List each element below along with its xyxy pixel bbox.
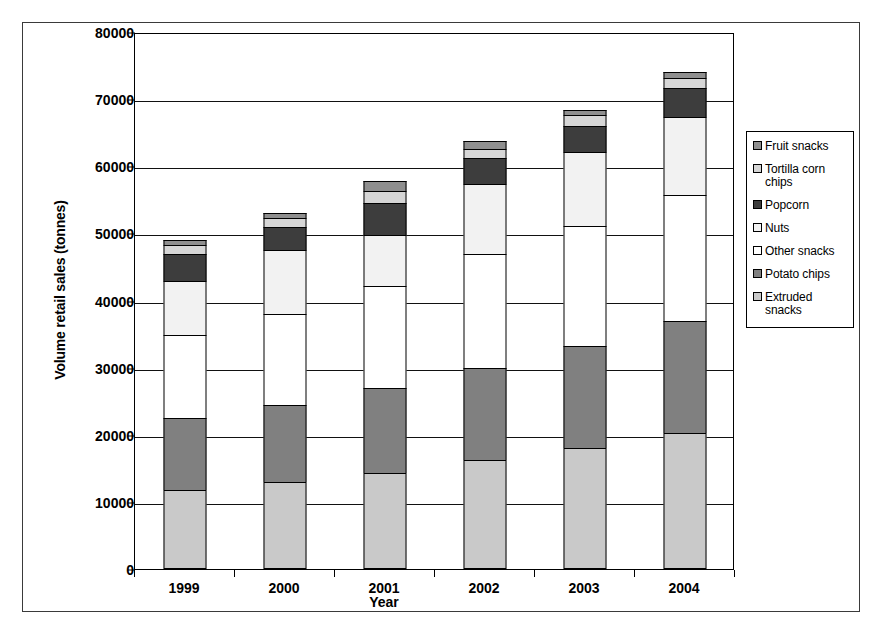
bar-segment[interactable] <box>564 346 607 448</box>
legend-item[interactable]: Tortilla corn chips <box>753 163 849 189</box>
y-axis-tick-label: 10000 <box>64 495 134 511</box>
bar-segment[interactable] <box>364 388 407 473</box>
stacked-bar[interactable] <box>164 240 207 569</box>
legend-label: Other snacks <box>765 245 835 258</box>
bar-segment[interactable] <box>664 321 707 434</box>
bar-segment[interactable] <box>164 281 207 335</box>
y-axis-tick-label: 20000 <box>64 428 134 444</box>
x-axis-tick-mark <box>534 570 535 577</box>
bar-group <box>635 34 735 569</box>
bar-segment[interactable] <box>164 335 207 418</box>
y-axis-tick-label: 60000 <box>64 159 134 175</box>
y-axis-tick-label: 30000 <box>64 361 134 377</box>
bar-segment[interactable] <box>264 218 307 227</box>
y-axis-tick-label: 0 <box>64 562 134 578</box>
stacked-bar[interactable] <box>464 141 507 569</box>
chart-figure: Volume retail sales (tonnes) 01000020000… <box>0 0 883 634</box>
x-axis-tick-label: 1999 <box>134 580 234 596</box>
legend-label: Fruit snacks <box>765 140 828 153</box>
stacked-bar[interactable] <box>564 110 607 569</box>
bar-segment[interactable] <box>364 203 407 235</box>
x-axis-tick-label: 2004 <box>634 580 734 596</box>
bar-segment[interactable] <box>464 368 507 460</box>
legend-swatch-icon <box>753 292 762 301</box>
legend-label: Potato chips <box>765 268 830 281</box>
stacked-bar[interactable] <box>364 181 407 569</box>
bar-segment[interactable] <box>464 254 507 368</box>
y-axis-tick-label: 80000 <box>64 25 134 41</box>
bar-segment[interactable] <box>264 482 307 569</box>
bar-segment[interactable] <box>664 88 707 117</box>
x-axis-tick-mark <box>334 570 335 577</box>
bar-segment[interactable] <box>364 286 407 388</box>
legend-item[interactable]: Popcorn <box>753 199 849 212</box>
x-axis-title: Year <box>334 594 434 610</box>
bar-segment[interactable] <box>364 191 407 203</box>
x-axis-tick-label: 2000 <box>234 580 334 596</box>
bar-segment[interactable] <box>164 254 207 281</box>
bar-segment[interactable] <box>464 158 507 184</box>
legend-item[interactable]: Nuts <box>753 222 849 235</box>
x-axis-tick-labels: 199920002001200220032004 <box>134 580 734 602</box>
stacked-bar[interactable] <box>664 72 707 569</box>
bar-segment[interactable] <box>164 418 207 490</box>
bar-segment[interactable] <box>664 78 707 88</box>
bar-segment[interactable] <box>264 227 307 250</box>
y-axis-tick-label: 50000 <box>64 226 134 242</box>
bar-segment[interactable] <box>464 149 507 158</box>
bar-segment[interactable] <box>564 115 607 126</box>
bar-segment[interactable] <box>364 235 407 285</box>
bar-segment[interactable] <box>664 433 707 569</box>
y-axis-tick-label: 40000 <box>64 294 134 310</box>
x-axis-tick-mark <box>234 570 235 577</box>
legend-item[interactable]: Potato chips <box>753 268 849 281</box>
bar-group <box>335 34 435 569</box>
plot-area <box>134 33 734 570</box>
bar-segment[interactable] <box>264 314 307 405</box>
legend-item[interactable]: Other snacks <box>753 245 849 258</box>
bar-segment[interactable] <box>564 126 607 152</box>
bar-group <box>235 34 335 569</box>
legend-swatch-icon <box>753 223 762 232</box>
legend-swatch-icon <box>753 269 762 278</box>
y-axis-tick-labels: 0100002000030000400005000060000700008000… <box>56 33 134 570</box>
bar-group <box>435 34 535 569</box>
bar-segment[interactable] <box>264 405 307 482</box>
bar-segment[interactable] <box>564 448 607 569</box>
x-axis-tick-mark <box>634 570 635 577</box>
chart-legend: Fruit snacksTortilla corn chipsPopcornNu… <box>746 131 854 328</box>
legend-label: Tortilla corn chips <box>765 163 849 189</box>
x-axis-tick-label: 2002 <box>434 580 534 596</box>
x-axis-tick-mark <box>134 570 135 577</box>
bar-segment[interactable] <box>664 195 707 321</box>
bar-segment[interactable] <box>264 250 307 314</box>
y-axis-tick-label: 70000 <box>64 92 134 108</box>
legend-item[interactable]: Fruit snacks <box>753 140 849 153</box>
x-axis-tick-label: 2003 <box>534 580 634 596</box>
bar-segment[interactable] <box>664 117 707 195</box>
x-axis-tick-mark <box>734 570 735 577</box>
bar-group <box>535 34 635 569</box>
bar-segment[interactable] <box>164 490 207 569</box>
legend-swatch-icon <box>753 164 762 173</box>
bar-segment[interactable] <box>564 152 607 227</box>
x-axis-tick-mark <box>434 570 435 577</box>
legend-swatch-icon <box>753 200 762 209</box>
legend-label: Extruded snacks <box>765 291 849 317</box>
x-axis-tick-marks <box>134 570 734 578</box>
legend-swatch-icon <box>753 141 762 150</box>
bar-segment[interactable] <box>464 460 507 569</box>
legend-label: Popcorn <box>765 199 809 212</box>
bar-segment[interactable] <box>464 141 507 148</box>
bar-group <box>135 34 235 569</box>
bar-segment[interactable] <box>364 473 407 569</box>
legend-item[interactable]: Extruded snacks <box>753 291 849 317</box>
legend-swatch-icon <box>753 246 762 255</box>
bar-segment[interactable] <box>464 184 507 254</box>
bar-segment[interactable] <box>564 226 607 346</box>
legend-label: Nuts <box>765 222 789 235</box>
bar-segment[interactable] <box>164 245 207 254</box>
stacked-bar[interactable] <box>264 213 307 569</box>
bar-segment[interactable] <box>364 181 407 191</box>
